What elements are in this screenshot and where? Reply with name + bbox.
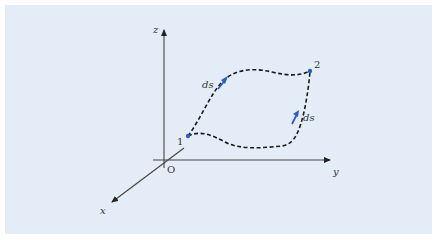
point-1-label: 1: [177, 136, 183, 147]
line-integral-diagram: z y x O ds ds 1 2: [0, 0, 438, 240]
ds-label-upper: ds: [202, 79, 214, 90]
x-axis-label: x: [100, 205, 106, 216]
point-1-marker: [186, 134, 190, 138]
ds-arrow-upper: [218, 76, 228, 89]
point-2-marker: [308, 69, 312, 73]
ds-arrow-lower: [292, 110, 299, 124]
y-axis-label: y: [332, 166, 339, 177]
x-axis: [112, 148, 184, 202]
point-2-label: 2: [314, 59, 320, 70]
z-axis-label: z: [152, 24, 159, 35]
ds-label-lower: ds: [303, 112, 315, 123]
origin-label: O: [167, 164, 175, 175]
